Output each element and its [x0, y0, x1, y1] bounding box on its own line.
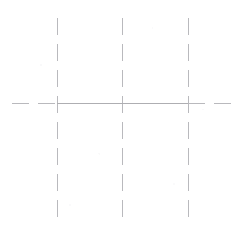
centerline-drawing: [0, 0, 242, 233]
drawing-canvas: [0, 0, 242, 233]
drawing-background: [0, 0, 242, 233]
